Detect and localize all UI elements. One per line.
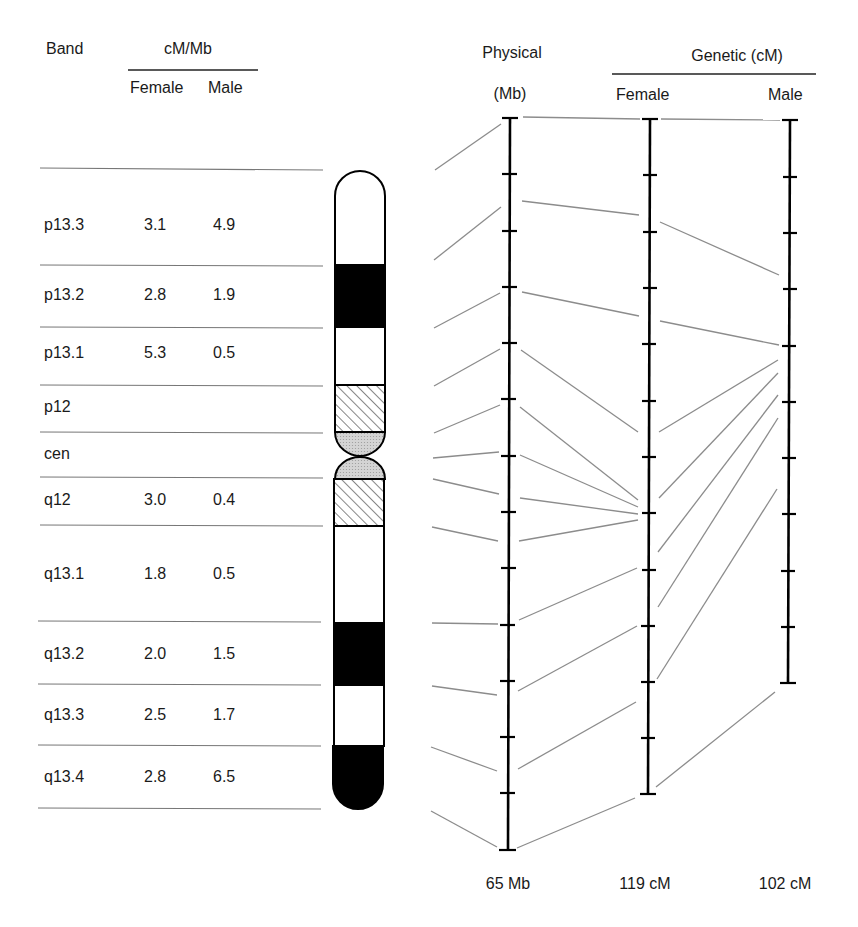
- band-p13-2: [335, 266, 385, 327]
- band-q13-2: [334, 623, 384, 685]
- band-p13-3: [335, 171, 385, 265]
- physical-map-axis: [499, 118, 518, 850]
- physical-to-female-connectors: [517, 117, 640, 848]
- band-boundary-rules: [38, 168, 323, 809]
- band-q13-3: [334, 685, 384, 746]
- chromosome-map-figure: [0, 0, 858, 927]
- male-genetic-axis: [780, 120, 798, 683]
- chromosome-ideogram: [333, 171, 385, 809]
- band-p13-1: [335, 327, 385, 385]
- band-to-physical-connectors: [431, 124, 501, 847]
- centromere-lower: [335, 457, 385, 479]
- centromere-upper: [335, 432, 385, 456]
- band-p12: [335, 385, 385, 432]
- female-to-male-connectors: [656, 119, 780, 787]
- band-q13-4: [333, 746, 383, 809]
- female-genetic-axis: [640, 119, 658, 794]
- band-q12: [334, 479, 384, 526]
- band-q13-1: [334, 526, 384, 623]
